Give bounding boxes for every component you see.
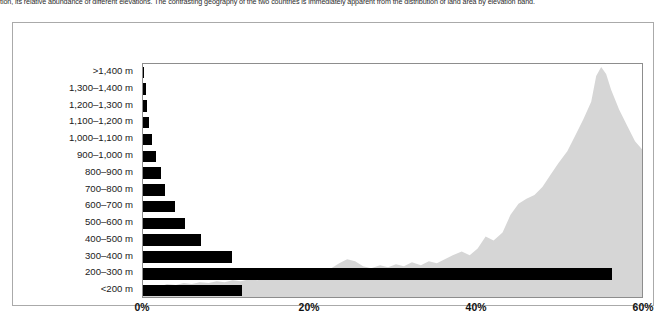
x-axis-tick-label: 20% — [299, 302, 320, 313]
y-axis-tick-label: 300–400 m — [85, 248, 133, 265]
x-axis-tick-label: 60% — [633, 302, 654, 313]
bar-row — [143, 114, 149, 131]
bar — [143, 251, 232, 263]
x-axis-tick-label: 40% — [466, 302, 487, 313]
bar-row — [143, 198, 175, 215]
y-axis-tick-label: 1,300–1,400 m — [69, 80, 133, 97]
bar — [143, 268, 612, 280]
bar-row — [143, 282, 242, 298]
bar — [143, 67, 144, 79]
bar-row — [143, 232, 201, 249]
bar — [143, 117, 149, 129]
bar — [143, 100, 147, 112]
figure-caption: tion, its relative abundance of differen… — [0, 0, 666, 7]
y-axis-tick-label: 700–800 m — [85, 181, 133, 198]
bar-row — [143, 249, 232, 266]
bar-row — [143, 215, 185, 232]
plot-area — [142, 63, 643, 298]
bar-row — [143, 148, 156, 165]
bar-row — [143, 64, 144, 81]
bar-row — [143, 265, 612, 282]
y-axis-tick-label: 900–1,000 m — [77, 147, 133, 164]
bar — [143, 134, 152, 146]
y-axis-tick-label: 400–500 m — [85, 231, 133, 248]
bar — [143, 151, 156, 163]
bar — [143, 218, 185, 230]
bar — [143, 184, 165, 196]
bar — [143, 201, 175, 213]
bar — [143, 234, 201, 246]
y-axis-tick-label: >1,400 m — [93, 63, 133, 80]
chart-page: tion, its relative abundance of differen… — [0, 0, 666, 315]
bar-row — [143, 165, 161, 182]
y-axis-tick-label: 200–300 m — [85, 264, 133, 281]
x-axis-tick-label: 0% — [134, 302, 149, 313]
y-axis-tick-label: <200 m — [101, 281, 133, 298]
bar-row — [143, 81, 146, 98]
y-axis-tick-label: 500–600 m — [85, 214, 133, 231]
bar-row — [143, 131, 152, 148]
x-axis-label-group: 0%20%40%60% — [13, 302, 666, 315]
bar-row — [143, 98, 147, 115]
bar — [143, 285, 242, 297]
bar — [143, 167, 161, 179]
bar — [143, 83, 146, 95]
figure-frame: >1,400 m1,300–1,400 m1,200–1,300 m1,100–… — [12, 22, 654, 306]
y-axis-tick-label: 1,200–1,300 m — [69, 97, 133, 114]
y-axis-tick-label: 600–700 m — [85, 197, 133, 214]
y-axis-tick-label: 800–900 m — [85, 164, 133, 181]
bar-row — [143, 182, 165, 199]
bar-series — [143, 64, 642, 297]
y-axis-tick-label: 1,100–1,200 m — [69, 113, 133, 130]
y-axis-label-group: >1,400 m1,300–1,400 m1,200–1,300 m1,100–… — [25, 63, 138, 298]
y-axis-tick-label: 1,000–1,100 m — [69, 130, 133, 147]
